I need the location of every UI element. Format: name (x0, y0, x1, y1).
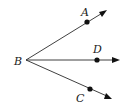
point-c (87, 86, 92, 91)
point-a (84, 19, 89, 24)
label-b: B (13, 55, 22, 68)
arrowhead-c-icon (104, 93, 112, 99)
point-d (94, 57, 99, 62)
label-d: D (92, 43, 102, 56)
label-c: C (76, 92, 85, 105)
ray-bc (26, 60, 109, 97)
rays-diagram: A D C B (0, 0, 128, 108)
arrowhead-d-icon (112, 57, 120, 63)
label-a: A (80, 6, 89, 19)
arrowhead-a-icon (99, 10, 107, 17)
